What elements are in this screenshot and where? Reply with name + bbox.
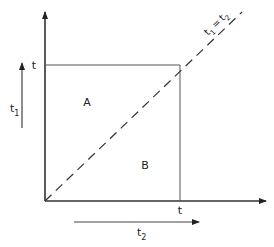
t2-axis-label: t2 bbox=[137, 226, 146, 242]
diagonal-dashed-line bbox=[45, 12, 242, 201]
t1-axis-label: t1 bbox=[10, 102, 19, 118]
region-b-label: B bbox=[141, 159, 149, 172]
vertical-tick-label: t bbox=[32, 59, 37, 72]
diagram-canvas: t t A B t1 t2 t1=t2 bbox=[0, 0, 274, 247]
diagonal-label: t1=t2 bbox=[202, 9, 233, 39]
horizontal-tick-label: t bbox=[178, 204, 183, 217]
svg-text:t1=t2: t1=t2 bbox=[202, 9, 233, 39]
region-a-label: A bbox=[83, 96, 91, 109]
